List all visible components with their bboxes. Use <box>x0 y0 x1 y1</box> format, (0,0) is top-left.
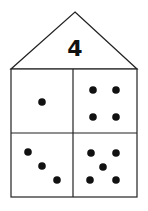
dot <box>87 149 95 157</box>
dot <box>99 163 107 171</box>
roof-number: 4 <box>67 36 82 61</box>
room-top-left <box>38 98 46 106</box>
roof: 4 <box>11 12 137 69</box>
dot <box>89 86 97 94</box>
dot <box>112 176 120 184</box>
number-house-diagram: 4 <box>0 0 148 211</box>
dot <box>112 86 120 94</box>
dot <box>89 113 97 121</box>
dot <box>38 98 46 106</box>
dot <box>53 176 61 184</box>
dot <box>38 162 46 170</box>
dot <box>86 176 94 184</box>
dot <box>24 148 32 156</box>
dot <box>112 149 120 157</box>
dot <box>112 113 120 121</box>
